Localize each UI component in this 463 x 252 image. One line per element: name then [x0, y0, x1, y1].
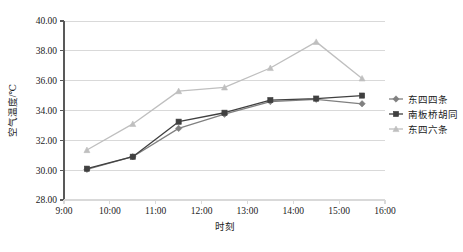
y-tick-label: 28.00 [36, 195, 58, 205]
data-point-marker [84, 166, 89, 171]
data-point-marker [393, 111, 398, 116]
x-tick-label: 15:00 [328, 206, 350, 216]
x-tick-label: 14:00 [282, 206, 304, 216]
data-point-marker [359, 93, 364, 98]
data-point-marker [84, 147, 90, 153]
x-tick-label: 10:00 [99, 206, 121, 216]
x-tick-label: 11:00 [145, 206, 167, 216]
y-axis-title: 空气温度/℃ [7, 84, 18, 138]
x-tick-label: 9:00 [56, 206, 73, 216]
line-chart: 28.0030.0032.0034.0036.0038.0040.009:001… [0, 0, 463, 252]
legend-item-3[interactable]: 东四六条 [389, 124, 448, 135]
series-3 [84, 39, 365, 153]
data-point-marker [176, 119, 181, 124]
x-tick-label: 16:00 [374, 206, 396, 216]
x-axis-title: 时刻 [215, 221, 235, 232]
data-point-marker [393, 96, 399, 102]
y-tick-label: 40.00 [36, 16, 58, 26]
data-point-marker [222, 110, 227, 115]
data-point-marker [175, 125, 181, 131]
legend-label: 东四六条 [408, 124, 448, 135]
legend-label: 南板桥胡同 [408, 109, 458, 120]
y-tick-label: 38.00 [36, 46, 58, 56]
y-tick-label: 30.00 [36, 166, 58, 176]
series-line [87, 42, 362, 150]
series-1 [84, 96, 366, 173]
series-2 [84, 93, 364, 171]
data-point-marker [267, 65, 273, 71]
y-tick-label: 36.00 [36, 76, 58, 86]
x-tick-label: 12:00 [191, 206, 213, 216]
x-tick-label: 13:00 [237, 206, 259, 216]
series-line [87, 96, 362, 169]
data-point-marker [359, 101, 365, 107]
legend-item-1[interactable]: 东四四条 [389, 94, 448, 105]
y-tick-label: 32.00 [36, 136, 58, 146]
data-point-marker [130, 154, 135, 159]
y-tick-label: 34.00 [36, 106, 58, 116]
legend-label: 东四四条 [408, 94, 448, 105]
chart-canvas: 28.0030.0032.0034.0036.0038.0040.009:001… [0, 0, 463, 252]
legend-item-2[interactable]: 南板桥胡同 [389, 109, 458, 120]
data-point-marker [313, 39, 319, 45]
data-point-marker [268, 97, 273, 102]
data-point-marker [314, 96, 319, 101]
series-line [87, 99, 362, 169]
